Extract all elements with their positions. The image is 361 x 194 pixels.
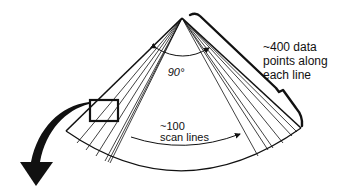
data-points-label-line-1: ~400 data xyxy=(263,40,328,54)
scan-lines-label-line-2: scan lines xyxy=(160,132,209,143)
data-points-label-line-2: points along xyxy=(263,54,328,68)
angle-label: 90° xyxy=(168,67,185,78)
data-points-label: ~400 data points along each line xyxy=(263,40,328,82)
sector-scan-diagram xyxy=(0,0,361,194)
data-points-label-line-3: each line xyxy=(263,68,328,82)
callout-arrow xyxy=(20,102,89,186)
scan-lines-label: ~100 scan lines xyxy=(160,121,209,143)
